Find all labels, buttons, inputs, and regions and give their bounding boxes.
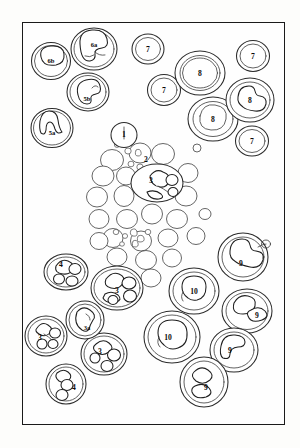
label-7-c: 7 <box>251 52 255 61</box>
cell-10-b <box>144 311 200 363</box>
cell-3a <box>66 301 104 339</box>
figure-plate: 1 2 3 3 3 3 3a 4 4 5a 5b 6a 6b 7 7 7 7 8… <box>0 0 300 448</box>
label-7-d: 7 <box>250 137 254 146</box>
cell-5b <box>67 73 109 111</box>
cell-4-a <box>44 254 88 290</box>
label-5b: 5b <box>84 95 91 102</box>
cell-diagram-canvas: 1 2 3 3 3 3 3a 4 4 5a 5b 6a 6b 7 7 7 7 8… <box>0 0 300 448</box>
label-7-a: 7 <box>146 45 150 54</box>
label-9-a: 9 <box>239 259 243 268</box>
label-8-c: 8 <box>248 96 252 105</box>
label-9-c: 9 <box>228 346 232 355</box>
label-9-b: 9 <box>255 311 259 320</box>
label-3-center: 3 <box>149 176 153 185</box>
label-4-b: 4 <box>72 383 76 392</box>
label-10-a: 10 <box>190 287 198 296</box>
cell-4-b <box>46 364 86 404</box>
cell-3-center <box>131 164 183 202</box>
label-5a: 5a <box>49 129 56 136</box>
cell-9-a <box>218 233 271 281</box>
label-9-d: 9 <box>204 383 208 392</box>
label-7-b: 7 <box>162 86 166 95</box>
label-8-b: 8 <box>211 115 215 124</box>
cell-6a <box>71 28 117 70</box>
label-6a: 6a <box>91 41 98 48</box>
label-3a: 3a <box>84 324 91 331</box>
label-10-b: 10 <box>164 333 172 342</box>
label-6b: 6b <box>48 57 55 64</box>
label-1: 1 <box>122 130 126 139</box>
label-3-c: 3 <box>38 333 42 342</box>
label-3-d: 3 <box>98 347 102 356</box>
label-4-a: 4 <box>59 260 63 269</box>
label-8-a: 8 <box>198 69 202 78</box>
cell-3-c <box>25 316 67 356</box>
label-3-b: 3 <box>115 286 119 295</box>
label-2: 2 <box>144 155 148 164</box>
cell-9-b <box>222 289 272 333</box>
